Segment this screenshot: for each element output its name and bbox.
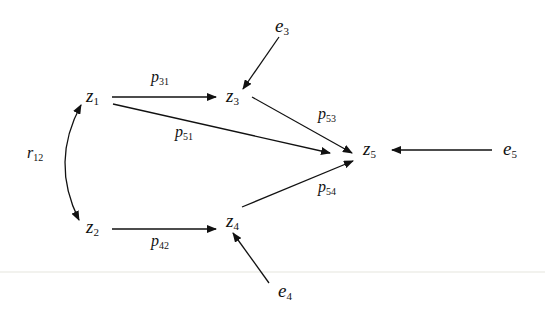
node-z3: z3 (226, 86, 239, 107)
coef-p51: p51 (175, 124, 193, 142)
edge-e4-z4 (233, 233, 269, 283)
error-e3: e3 (275, 16, 289, 37)
node-z1: z1 (86, 86, 99, 107)
coef-p53: p53 (318, 106, 336, 124)
edge-z1-z5 (113, 104, 330, 153)
edge-r12-correlation (65, 105, 81, 220)
node-z5: z5 (363, 139, 376, 160)
node-z2: z2 (86, 217, 99, 238)
error-e5: e5 (503, 139, 517, 160)
node-z4: z4 (226, 211, 239, 232)
edge-z4-z5 (242, 161, 353, 207)
edge-e3-z3 (243, 37, 279, 89)
path-diagram (0, 0, 545, 315)
coef-p54: p54 (318, 179, 336, 197)
error-e4: e4 (278, 281, 292, 302)
edge-z3-z5 (252, 97, 352, 153)
coef-p31: p31 (151, 69, 169, 87)
coef-r12: r12 (27, 145, 43, 163)
coef-p42: p42 (151, 233, 169, 251)
